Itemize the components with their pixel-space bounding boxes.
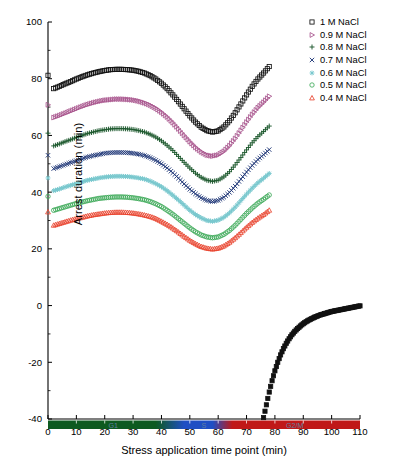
legend-label: 0.9 M NaCl bbox=[319, 30, 367, 40]
figure: -40-200204060801000102030405060708090100… bbox=[0, 0, 396, 466]
legend-item-0-9-m-nacl[interactable]: 0.9 M NaCl bbox=[305, 29, 396, 42]
legend-label: 0.6 M NaCl bbox=[319, 68, 367, 78]
legend-item-0-7-m-nacl[interactable]: 0.7 M NaCl bbox=[305, 54, 396, 67]
data-point bbox=[310, 70, 315, 75]
data-point bbox=[267, 208, 272, 212]
y-tick-label: 60 bbox=[31, 130, 42, 141]
y-tick-label: -20 bbox=[28, 357, 42, 368]
data-point bbox=[310, 83, 314, 87]
y-tick-label: 40 bbox=[31, 187, 42, 198]
y-tick-label: 0 bbox=[37, 300, 42, 311]
x-axis-label: Stress application time point (min) bbox=[48, 444, 360, 456]
legend-item-0-6-m-nacl[interactable]: 0.6 M NaCl bbox=[305, 66, 396, 79]
data-point bbox=[261, 415, 265, 419]
data-point bbox=[266, 396, 270, 400]
data-point bbox=[310, 32, 314, 37]
legend-item-0-8-m-nacl[interactable]: 0.8 M NaCl bbox=[305, 41, 396, 54]
legend-label: 1 M NaCl bbox=[319, 17, 359, 27]
legend-marker-icon bbox=[305, 79, 319, 91]
y-tick-label: -40 bbox=[28, 413, 42, 424]
phase-label-s: S bbox=[202, 421, 207, 430]
y-tick-label: 80 bbox=[31, 73, 42, 84]
legend-marker-icon bbox=[305, 54, 319, 66]
legend-label: 0.7 M NaCl bbox=[319, 55, 367, 65]
legend-marker-icon bbox=[305, 67, 319, 79]
data-point bbox=[269, 384, 273, 388]
legend-label: 0.8 M NaCl bbox=[319, 42, 367, 52]
data-point bbox=[310, 45, 315, 50]
data-point bbox=[264, 403, 268, 407]
data-point bbox=[46, 176, 51, 181]
data-point bbox=[310, 58, 314, 62]
data-point bbox=[267, 171, 272, 176]
y-tick-label: 100 bbox=[26, 16, 42, 27]
y-tick-label: 20 bbox=[31, 243, 42, 254]
phase-label-g1: G1 bbox=[108, 421, 118, 430]
legend-item-1-m-nacl[interactable]: 1 M NaCl bbox=[305, 16, 396, 29]
legend-marker-icon bbox=[305, 16, 319, 28]
legend-marker-icon bbox=[305, 29, 319, 41]
legend-item-0-4-m-nacl[interactable]: 0.4 M NaCl bbox=[305, 92, 396, 105]
data-point bbox=[263, 409, 267, 413]
data-point bbox=[271, 374, 275, 378]
data-point bbox=[274, 364, 278, 368]
data-point bbox=[267, 94, 271, 99]
series-recovery bbox=[261, 304, 362, 420]
data-point bbox=[270, 379, 274, 383]
y-axis-label: Arrest duration (min) bbox=[72, 94, 84, 254]
phase-label-g2m: G2/M bbox=[286, 421, 304, 430]
data-point bbox=[310, 95, 315, 99]
data-point bbox=[310, 20, 314, 24]
data-point bbox=[46, 131, 51, 136]
legend: 1 M NaCl0.9 M NaCl0.8 M NaCl0.7 M NaCl0.… bbox=[305, 16, 396, 104]
legend-item-0-5-m-nacl[interactable]: 0.5 M NaCl bbox=[305, 79, 396, 92]
data-point bbox=[358, 304, 362, 308]
data-point bbox=[267, 390, 271, 394]
legend-marker-icon bbox=[305, 92, 319, 104]
legend-marker-icon bbox=[305, 41, 319, 53]
data-point bbox=[267, 147, 271, 151]
data-point bbox=[273, 369, 277, 373]
legend-label: 0.4 M NaCl bbox=[319, 93, 367, 103]
legend-label: 0.5 M NaCl bbox=[319, 80, 367, 90]
